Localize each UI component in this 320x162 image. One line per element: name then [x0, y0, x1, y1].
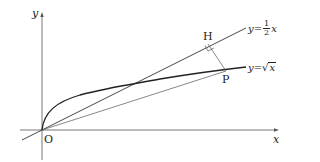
segment-OP: [42, 71, 226, 130]
label-curve-sqrt-x: y= √ x: [248, 62, 276, 73]
fraction: 1 2: [263, 20, 270, 37]
x-axis-arrow-icon: [274, 128, 279, 131]
label-line-half-x: y= 1 2 x: [248, 20, 277, 37]
eq-lhs: y=: [248, 24, 262, 34]
eq-lhs: y=: [248, 63, 262, 73]
fraction-denominator: 2: [264, 29, 269, 37]
origin-label: O: [44, 134, 53, 145]
segment-PH: [208, 44, 226, 71]
point-H-label: H: [203, 31, 213, 42]
point-P-label: P: [222, 74, 229, 85]
y-axis-arrow-icon: [40, 12, 43, 17]
x-axis-label: x: [273, 134, 279, 145]
y-axis-label: y: [32, 8, 38, 19]
sqrt-arg: x: [268, 62, 276, 73]
eq-var: x: [271, 24, 277, 34]
